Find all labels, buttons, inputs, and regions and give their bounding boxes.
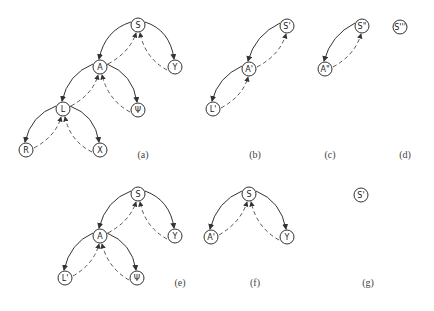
caption-f: (f) bbox=[250, 277, 260, 289]
svg-text:Y: Y bbox=[284, 233, 290, 242]
svg-text:L': L' bbox=[210, 105, 217, 114]
svg-text:L: L bbox=[61, 105, 66, 114]
node-a-S: S bbox=[131, 18, 145, 32]
svg-text:Ψ: Ψ bbox=[134, 274, 140, 283]
diagram-e-edges bbox=[64, 191, 174, 280]
caption-e: (e) bbox=[174, 277, 185, 289]
svg-text:R: R bbox=[23, 146, 29, 155]
node-a-X: X bbox=[93, 143, 107, 157]
node-c-A: A" bbox=[318, 62, 332, 76]
node-e-A: A bbox=[93, 229, 107, 243]
svg-text:Ψ: Ψ bbox=[135, 106, 141, 115]
diagram-a-edges bbox=[25, 22, 174, 152]
node-a-L: L bbox=[56, 102, 70, 116]
node-a-A: A bbox=[93, 60, 107, 74]
node-f-S: S bbox=[242, 187, 256, 201]
svg-text:S: S bbox=[246, 190, 251, 199]
svg-text:S: S bbox=[135, 21, 140, 30]
node-g-S: S' bbox=[354, 188, 368, 202]
node-a-R: R bbox=[19, 143, 33, 157]
node-b-S: S' bbox=[280, 19, 294, 33]
svg-text:A': A' bbox=[207, 233, 215, 242]
svg-text:S": S" bbox=[358, 22, 367, 31]
node-e-Psi: Ψ bbox=[130, 271, 144, 285]
svg-text:L': L' bbox=[62, 274, 69, 283]
node-b-A: A' bbox=[242, 62, 256, 76]
svg-text:S: S bbox=[135, 190, 140, 199]
svg-text:S': S' bbox=[357, 191, 364, 200]
caption-d: (d) bbox=[399, 149, 411, 161]
svg-text:A": A" bbox=[320, 65, 329, 74]
svg-text:S': S' bbox=[283, 22, 290, 31]
svg-text:A: A bbox=[97, 232, 103, 241]
caption-g: (g) bbox=[362, 277, 374, 289]
svg-text:A': A' bbox=[245, 65, 253, 74]
svg-text:A: A bbox=[97, 63, 103, 72]
svg-text:S''': S''' bbox=[394, 23, 406, 32]
svg-text:X: X bbox=[97, 146, 103, 155]
caption-b: (b) bbox=[249, 149, 261, 161]
node-c-S: S" bbox=[355, 19, 369, 33]
svg-text:Y: Y bbox=[172, 63, 178, 72]
caption-c: (c) bbox=[324, 149, 335, 161]
node-a-Psi: Ψ bbox=[131, 103, 145, 117]
node-a-Y: Y bbox=[168, 60, 182, 74]
tree-diagrams: S A Y L Ψ R X S' A' L' S" A" S''' S A Y … bbox=[0, 0, 434, 311]
node-e-Y: Y bbox=[168, 229, 182, 243]
node-e-S: S bbox=[131, 187, 145, 201]
node-e-L: L' bbox=[58, 271, 72, 285]
node-f-Y: Y bbox=[280, 230, 294, 244]
node-d-S: S''' bbox=[393, 20, 407, 34]
node-b-L: L' bbox=[206, 102, 220, 116]
svg-text:Y: Y bbox=[172, 232, 178, 241]
node-f-A: A' bbox=[204, 230, 218, 244]
caption-a: (a) bbox=[137, 149, 148, 161]
